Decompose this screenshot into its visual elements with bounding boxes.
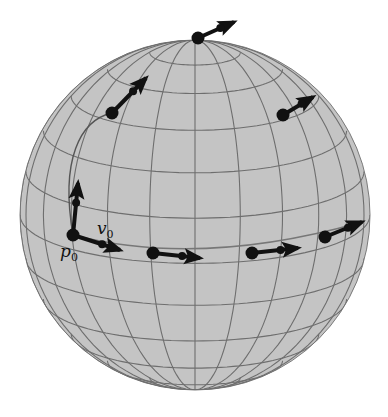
path-point-p0: [67, 229, 80, 242]
sphere-diagram: [0, 0, 388, 417]
path-point-bottom-1: [147, 247, 160, 260]
path-point-bottom-3: [319, 231, 332, 244]
p0-label: p0: [60, 243, 78, 263]
vector-arrow-marker: [277, 246, 285, 254]
path-point-upper-right: [277, 109, 290, 122]
vector-arrow-marker: [178, 252, 186, 260]
vector-arrow-marker: [216, 24, 224, 32]
vector-arrow-marker: [344, 224, 352, 232]
path-point-upper-left: [106, 107, 119, 120]
vector-arrow-marker: [72, 199, 80, 207]
vector-arrow-marker: [98, 240, 106, 248]
v0-label: v0: [97, 220, 114, 240]
path-point-north-pole: [192, 32, 205, 45]
path-point-bottom-2: [246, 247, 259, 260]
vector-arrow-marker: [298, 100, 306, 108]
vector-arrow-marker: [129, 87, 137, 95]
